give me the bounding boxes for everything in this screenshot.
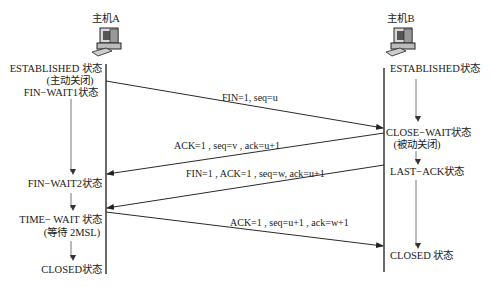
state-a-time-wait-note: (等待 2MSL) xyxy=(44,226,101,239)
host-b-label: 主机B xyxy=(387,12,414,24)
message-label: FIN=1, seq=u xyxy=(222,92,278,103)
message-label: FIN=1 , ACK=1 , seq=w, ack=u+1 xyxy=(186,168,325,179)
computer-icon xyxy=(92,28,121,56)
host-a-label: 主机A xyxy=(92,12,120,24)
message-ack2: ACK=1 , seq=u+1 , ack=w+1 xyxy=(106,212,383,246)
message-label: ACK=1 , seq=v , ack=u+1 xyxy=(174,140,280,151)
message-fin1: FIN=1, seq=u xyxy=(106,81,383,128)
state-b-last-ack: LAST−ACK状态 xyxy=(390,165,465,177)
computer-icon xyxy=(386,28,415,56)
state-a-established-note: (主动关闭) xyxy=(47,74,94,87)
state-b-close-wait-note: (被动关闭) xyxy=(394,138,441,151)
state-a-established: ESTABLISHED 状态 xyxy=(10,62,103,74)
host-a-states: ESTABLISHED 状态 (主动关闭) FIN−WAIT1状态 FIN−WA… xyxy=(10,62,103,275)
message-arrow xyxy=(106,81,383,128)
host-a: 主机A xyxy=(92,12,121,56)
state-a-fin-wait2: FIN−WAIT2状态 xyxy=(28,177,103,189)
host-b-states: ESTABLISHED状态 CLOSE−WAIT状态 (被动关闭) LAST−A… xyxy=(386,62,481,261)
state-a-fin-wait1: FIN−WAIT1状态 xyxy=(24,86,99,98)
state-a-closed: CLOSED状态 xyxy=(41,263,103,275)
tcp-four-way-handshake-diagram: 主机A 主机B ESTABLISHED 状态 (主动关闭) FIN−WAIT1状… xyxy=(0,0,490,287)
host-b: 主机B xyxy=(386,12,415,56)
message-label: ACK=1 , seq=u+1 , ack=w+1 xyxy=(230,217,349,228)
state-a-time-wait: TIME− WAIT 状态 xyxy=(19,213,103,225)
state-b-close-wait: CLOSE−WAIT状态 xyxy=(386,126,472,138)
message-fin2: FIN=1 , ACK=1 , seq=w, ack=u+1 xyxy=(107,165,384,208)
state-b-closed: CLOSED 状态 xyxy=(390,249,454,261)
state-b-established: ESTABLISHED状态 xyxy=(390,62,481,74)
